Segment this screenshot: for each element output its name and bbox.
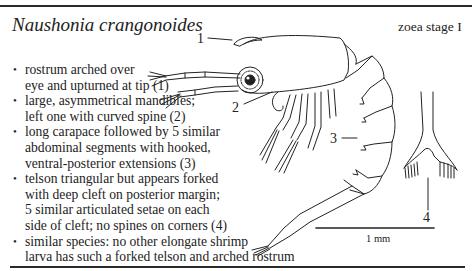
- larva-illustration: 1 2 3 4: [0, 0, 472, 271]
- antennae-drawing: [148, 72, 240, 108]
- callout-3-label: 3: [330, 131, 337, 146]
- abdomen-drawing: [252, 44, 395, 256]
- carapace-drawing: [242, 36, 349, 94]
- callout-1-label: 1: [197, 31, 204, 46]
- mandible-drawing: [272, 92, 283, 111]
- bottom-rule: [10, 266, 465, 268]
- thoracic-appendages-drawing: [260, 89, 336, 173]
- scale-bar-label: 1 mm: [366, 233, 390, 244]
- callout-4-label: 4: [423, 210, 430, 225]
- telson-detail-drawing: [404, 92, 457, 178]
- callout-1-leader: [208, 38, 232, 40]
- callout-2-leader: [244, 92, 272, 104]
- callout-2-label: 2: [232, 100, 239, 115]
- eye-drawing: [237, 67, 263, 93]
